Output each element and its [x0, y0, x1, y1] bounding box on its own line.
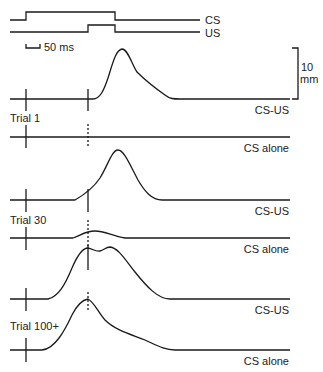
us-label: US [205, 27, 220, 39]
trace-label: CS alone [244, 355, 289, 367]
time-scale-bar [26, 44, 40, 48]
trace-label: CS-US [255, 205, 289, 217]
time-scale-label: 50 ms [44, 41, 74, 53]
cs-label: CS [205, 14, 220, 26]
eyeblink-conditioning-diagram [0, 0, 323, 372]
trace-label: CS alone [244, 142, 289, 154]
us-timing-trace [10, 25, 200, 32]
amplitude-scale-unit: mm [300, 73, 318, 85]
trace-label: CS-US [255, 304, 289, 316]
trace-label: CS-US [255, 104, 289, 116]
trial-label: Trial 1 [10, 112, 40, 124]
trial-1-cs-us-trace [10, 49, 290, 99]
amplitude-scale-bar [292, 48, 298, 99]
trial-label: Trial 100+ [10, 320, 59, 332]
cs-timing-trace [10, 12, 200, 20]
trial-30-cs-us-trace [10, 150, 290, 200]
amplitude-scale-value: 10 [301, 61, 313, 73]
trial-30-cs-alone-trace [10, 231, 290, 238]
trace-label: CS alone [244, 243, 289, 255]
trial-label: Trial 30 [10, 214, 46, 226]
